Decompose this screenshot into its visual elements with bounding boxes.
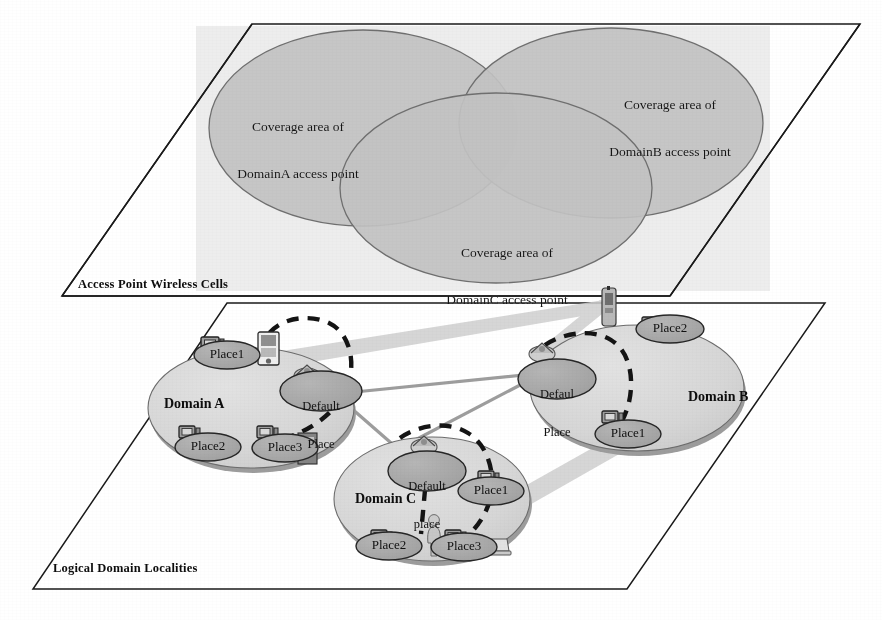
place-label-c-place3: Place3 <box>434 539 494 554</box>
place-label-c-default-line2: place <box>397 518 457 531</box>
coverage-label-domainC: Coverage area of DomainC access point <box>417 214 597 338</box>
diagram-canvas: Access Point Wireless Cells Logical Doma… <box>0 0 882 620</box>
place-label-a-default: Default Place <box>291 375 351 475</box>
logical-domain-plane-caption: Logical Domain Localities <box>53 561 198 575</box>
place-label-b-place1: Place1 <box>598 426 658 441</box>
place-label-a-default-line1: Default <box>291 400 351 413</box>
place-label-b-default-line2: Place <box>527 426 587 439</box>
coverage-label-domainA: Coverage area of DomainA access point <box>213 88 383 212</box>
place-label-b-place2: Place2 <box>640 321 700 336</box>
domain-B-title: Domain B <box>688 389 748 405</box>
place-label-a-place3: Place3 <box>255 440 315 455</box>
place-label-b-default: Defaul Place <box>527 363 587 463</box>
coverage-label-domainA-line2: DomainA access point <box>213 166 383 182</box>
coverage-label-domainB: Coverage area of DomainB access point <box>580 66 760 190</box>
place-label-a-place2: Place2 <box>178 439 238 454</box>
place-label-c-default-line1: Default <box>397 480 457 493</box>
coverage-label-domainC-line2: DomainC access point <box>417 292 597 308</box>
place-label-c-place1: Place1 <box>461 483 521 498</box>
place-label-b-default-line1: Defaul <box>527 388 587 401</box>
access-point-plane-caption: Access Point Wireless Cells <box>78 277 228 291</box>
coverage-label-domainC-line1: Coverage area of <box>417 245 597 261</box>
domain-A-title: Domain A <box>164 396 224 412</box>
place-label-c-place2: Place2 <box>359 538 419 553</box>
coverage-label-domainA-line1: Coverage area of <box>213 119 383 135</box>
coverage-label-domainB-line1: Coverage area of <box>580 97 760 113</box>
place-label-a-place1: Place1 <box>197 347 257 362</box>
coverage-label-domainB-line2: DomainB access point <box>580 144 760 160</box>
